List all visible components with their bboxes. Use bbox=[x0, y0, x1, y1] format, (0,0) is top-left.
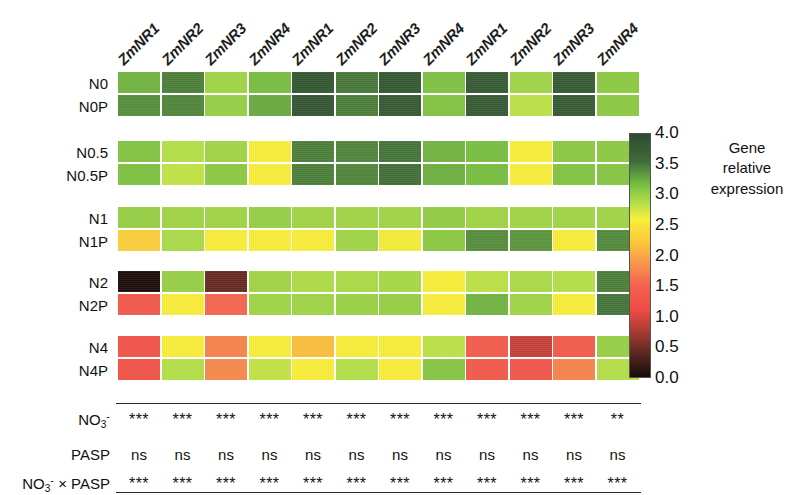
row-label-n1: N1 bbox=[8, 211, 108, 226]
stat-rule-bottom bbox=[290, 492, 467, 493]
colorbar-tick-3-5: 3.5 bbox=[655, 154, 679, 174]
colorbar-tick-2-0: 2.0 bbox=[655, 246, 679, 266]
heatmap-cell bbox=[553, 207, 595, 228]
stat-value: ns bbox=[423, 447, 465, 462]
heatmap-cell bbox=[118, 294, 160, 315]
heatmap-cell bbox=[423, 95, 465, 116]
stat-rule-top bbox=[290, 403, 467, 404]
stat-row-label-2: PASP bbox=[0, 447, 110, 462]
heatmap-cell bbox=[379, 359, 421, 380]
colorbar-tick-1-5: 1.5 bbox=[655, 276, 679, 296]
stat-value: ns bbox=[162, 447, 204, 462]
stat-value: *** bbox=[292, 412, 334, 428]
heatmap-cell bbox=[162, 207, 204, 228]
row-label-n2p: N2P bbox=[8, 298, 108, 313]
heatmap-cell bbox=[466, 336, 508, 357]
heatmap-cell bbox=[249, 336, 291, 357]
heatmap-cell bbox=[162, 294, 204, 315]
row-label-n0: N0 bbox=[8, 76, 108, 91]
heatmap-cell bbox=[292, 359, 334, 380]
stat-value: *** bbox=[510, 476, 552, 492]
heatmap-cell bbox=[553, 164, 595, 185]
column-header-zmnr4: ZmNR4 bbox=[418, 20, 466, 68]
heatmap-cell bbox=[205, 207, 247, 228]
colorbar-gradient bbox=[629, 133, 651, 378]
column-header-zmnr2: ZmNR2 bbox=[505, 20, 553, 68]
heatmap-cell bbox=[118, 72, 160, 93]
stat-rule-top bbox=[116, 403, 293, 404]
column-header-zmnr1: ZmNR1 bbox=[114, 20, 162, 68]
stat-value: *** bbox=[510, 412, 552, 428]
stat-value: *** bbox=[597, 476, 639, 492]
heatmap-cell bbox=[205, 72, 247, 93]
heatmap-cell bbox=[423, 359, 465, 380]
stat-value: ns bbox=[510, 447, 552, 462]
heatmap-cell bbox=[162, 141, 204, 162]
heatmap-cell bbox=[423, 294, 465, 315]
heatmap-cell bbox=[336, 72, 378, 93]
stat-value: *** bbox=[466, 476, 508, 492]
heatmap-cell bbox=[510, 141, 552, 162]
heatmap-cell bbox=[205, 271, 247, 292]
stat-value: ns bbox=[118, 447, 160, 462]
heatmap-cell bbox=[466, 95, 508, 116]
column-header-zmnr3: ZmNR3 bbox=[549, 20, 597, 68]
column-header-zmnr2: ZmNR2 bbox=[157, 20, 205, 68]
heatmap-cell bbox=[466, 72, 508, 93]
heatmap-cell bbox=[553, 72, 595, 93]
heatmap-cell bbox=[118, 359, 160, 380]
heatmap-cell bbox=[553, 141, 595, 162]
heatmap-cell bbox=[379, 141, 421, 162]
heatmap-cell bbox=[118, 141, 160, 162]
stat-value: ns bbox=[205, 447, 247, 462]
heatmap-cell bbox=[118, 95, 160, 116]
colorbar-tick-4-0: 4.0 bbox=[655, 123, 679, 143]
heatmap-cell bbox=[466, 271, 508, 292]
heatmap-cell bbox=[336, 230, 378, 251]
heatmap-cell bbox=[249, 294, 291, 315]
heatmap-cell bbox=[510, 294, 552, 315]
heatmap-cell bbox=[249, 359, 291, 380]
heatmap-cell bbox=[162, 271, 204, 292]
heatmap-cell bbox=[249, 141, 291, 162]
heatmap-cell bbox=[162, 95, 204, 116]
heatmap-cell bbox=[336, 294, 378, 315]
stat-value: *** bbox=[205, 412, 247, 428]
stat-value: *** bbox=[553, 412, 595, 428]
heatmap-cell bbox=[292, 230, 334, 251]
heatmap-cell bbox=[249, 207, 291, 228]
stat-value: *** bbox=[118, 412, 160, 428]
stat-value: ns bbox=[379, 447, 421, 462]
stat-row-label-1: NO3- bbox=[0, 412, 110, 427]
heatmap-cell bbox=[423, 271, 465, 292]
colorbar-tick-1-0: 1.0 bbox=[655, 307, 679, 327]
heatmap-cell bbox=[553, 95, 595, 116]
stat-value: *** bbox=[336, 476, 378, 492]
heatmap-cell bbox=[336, 141, 378, 162]
heatmap-cell bbox=[597, 95, 639, 116]
stat-value: *** bbox=[466, 412, 508, 428]
row-label-n0-5p: N0.5P bbox=[8, 168, 108, 183]
heatmap-cell bbox=[336, 164, 378, 185]
heatmap-cell bbox=[510, 207, 552, 228]
heatmap-cell bbox=[423, 336, 465, 357]
colorbar-tick-0-5: 0.5 bbox=[655, 337, 679, 357]
heatmap-cell bbox=[205, 359, 247, 380]
heatmap-cell bbox=[118, 164, 160, 185]
heatmap-cell bbox=[249, 95, 291, 116]
column-header-zmnr1: ZmNR1 bbox=[288, 20, 336, 68]
colorbar-tick-2-5: 2.5 bbox=[655, 215, 679, 235]
heatmap-cell bbox=[292, 336, 334, 357]
stat-value: *** bbox=[379, 412, 421, 428]
row-label-n2: N2 bbox=[8, 275, 108, 290]
heatmap-cell bbox=[553, 359, 595, 380]
heatmap-cell bbox=[597, 72, 639, 93]
heatmap-cell bbox=[553, 294, 595, 315]
heatmap-cell bbox=[423, 164, 465, 185]
colorbar-tick-0-0: 0.0 bbox=[655, 368, 679, 388]
heatmap-cell bbox=[292, 294, 334, 315]
heatmap-cell bbox=[379, 95, 421, 116]
heatmap-cell bbox=[510, 336, 552, 357]
heatmap-cell bbox=[379, 271, 421, 292]
